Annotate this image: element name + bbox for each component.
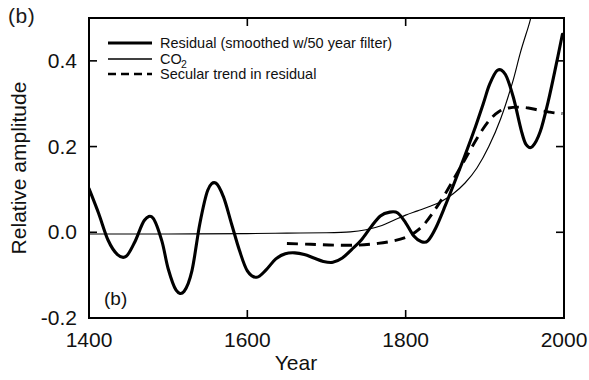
y-tick-label-3: 0.4	[48, 49, 78, 72]
y-axis-ticks	[89, 61, 564, 318]
panel-label-inner: (b)	[104, 288, 127, 309]
chart-canvas: -0.20.00.20.4 1400160018002000 Year Rela…	[0, 0, 589, 380]
legend-label-residual: Residual (smoothed w/50 year filter)	[160, 35, 392, 51]
y-axis-tick-labels: -0.20.00.20.4	[41, 49, 77, 329]
y-tick-label-2: 0.2	[48, 135, 77, 158]
x-tick-label-2: 1800	[382, 328, 429, 351]
x-axis-title: Year	[275, 351, 317, 374]
figure-root: (b) -0.20.00.20.4 1400160018002000 Year …	[0, 0, 589, 380]
legend: Residual (smoothed w/50 year filter) CO …	[108, 35, 392, 82]
x-tick-label-1: 1600	[224, 328, 271, 351]
y-axis-title: Relative amplitude	[7, 82, 30, 255]
y-tick-label-1: 0.0	[48, 220, 77, 243]
y-tick-label-0: -0.2	[41, 306, 77, 329]
x-tick-label-3: 2000	[541, 328, 588, 351]
x-tick-label-0: 1400	[66, 328, 113, 351]
x-axis-tick-labels: 1400160018002000	[66, 328, 588, 351]
legend-label-co2: CO	[160, 51, 182, 67]
legend-label-secular-trend: Secular trend in residual	[160, 66, 316, 82]
